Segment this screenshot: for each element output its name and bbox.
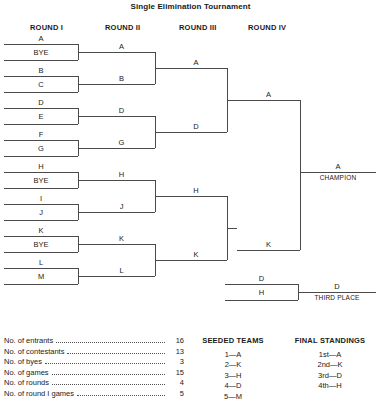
round1-line-9	[4, 172, 78, 173]
stats-table: No. of entrants 16 No. of contestants 13…	[4, 336, 184, 399]
round2-slot-2: B	[88, 74, 155, 83]
round1-line-5	[4, 108, 78, 109]
stats-value: 4	[168, 378, 184, 389]
stats-row: No. of round I games 5	[4, 389, 184, 400]
round2-slot-1: A	[88, 42, 155, 51]
stats-row: No. of byes 3	[4, 357, 184, 368]
round4-line-1	[237, 100, 300, 101]
list-item: 4—D	[186, 381, 280, 392]
round3-slot-3: H	[165, 186, 227, 195]
round2-stub-3	[155, 196, 165, 197]
round1-slot-13: K	[4, 226, 78, 235]
round1-stub-6	[78, 212, 88, 213]
round1-line-13	[4, 236, 78, 237]
round1-stub-2	[78, 84, 88, 85]
round1-slot-1: A	[4, 34, 78, 43]
round1-line-14	[4, 252, 78, 253]
round3-line-2	[165, 132, 227, 133]
round3-line-3	[165, 196, 227, 197]
round1-stub-5	[78, 180, 88, 181]
round-header-4: ROUND IV	[248, 23, 286, 32]
stats-dots	[45, 363, 165, 364]
round2-line-2	[88, 84, 155, 85]
round1-stub-8	[78, 276, 88, 277]
round-header-1: ROUND I	[30, 23, 63, 32]
stats-dots	[56, 342, 165, 343]
third-place-caption: THIRD PLACE	[298, 294, 376, 301]
round4-slot-1: A	[237, 90, 300, 99]
round1-line-8	[4, 156, 78, 157]
round1-slot-4: C	[4, 80, 78, 89]
round3-slot-4: K	[165, 250, 227, 259]
round3-line-1	[165, 68, 227, 69]
round1-stub-7	[78, 244, 88, 245]
stats-dots	[52, 374, 165, 375]
round1-line-12	[4, 220, 78, 221]
round2-line-5	[88, 180, 155, 181]
round2-slot-4: G	[88, 138, 155, 147]
round-header-3: ROUND III	[179, 23, 217, 32]
round3-slot-2: D	[165, 122, 227, 131]
round3-stub-2	[227, 228, 237, 229]
stats-label: No. of rounds	[4, 378, 49, 389]
stats-value: 3	[168, 357, 184, 368]
final-standings-title: FINAL STANDINGS	[283, 336, 377, 347]
round1-line-3	[4, 76, 78, 77]
stats-value: 5	[168, 389, 184, 400]
round3-stub-1	[227, 100, 237, 101]
seeded-teams-title: SEEDED TEAMS	[186, 336, 280, 347]
stats-value: 13	[168, 347, 184, 358]
round2-stub-1	[155, 68, 165, 69]
stats-label: No. of byes	[4, 357, 42, 368]
list-item: 1st—A	[283, 350, 377, 361]
round1-slot-5: D	[4, 98, 78, 107]
champion-caption: CHAMPION	[300, 174, 376, 181]
round2-stub-4	[155, 260, 165, 261]
round1-slot-3: B	[4, 66, 78, 75]
round1-line-10	[4, 188, 78, 189]
round4-slot-2: K	[237, 240, 300, 249]
round2-line-7	[88, 244, 155, 245]
round1-slot-6: E	[4, 112, 78, 121]
list-item: 1—A	[186, 350, 280, 361]
list-item: 3rd—D	[283, 371, 377, 382]
list-item: 4th—H	[283, 381, 377, 392]
round1-slot-2: BYE	[4, 48, 78, 57]
round2-stub-2	[155, 132, 165, 133]
stats-label: No. of contestants	[4, 347, 64, 358]
round1-slot-8: G	[4, 144, 78, 153]
round2-slot-6: J	[88, 202, 155, 211]
third-place-winner: D	[298, 282, 376, 291]
stats-row: No. of entrants 16	[4, 336, 184, 347]
round2-line-3	[88, 116, 155, 117]
round2-slot-8: L	[88, 266, 155, 275]
round1-line-7	[4, 140, 78, 141]
list-item: 2nd—K	[283, 360, 377, 371]
round1-line-6	[4, 124, 78, 125]
round1-line-1	[4, 44, 78, 45]
round2-line-8	[88, 276, 155, 277]
round1-slot-12: J	[4, 208, 78, 217]
seeded-teams-panel: SEEDED TEAMS 1—A 2—K 3—H 4—D 5—M	[186, 336, 280, 402]
round2-slot-5: H	[88, 170, 155, 179]
stats-dots	[77, 395, 165, 396]
stats-value: 16	[168, 336, 184, 347]
round1-slot-14: BYE	[4, 240, 78, 249]
seeded-teams-list: 1—A 2—K 3—H 4—D 5—M	[186, 350, 280, 403]
round3-line-4	[165, 260, 227, 261]
round1-slot-7: F	[4, 130, 78, 139]
round1-stub-3	[78, 116, 88, 117]
round1-stub-4	[78, 148, 88, 149]
stats-row: No. of rounds 4	[4, 378, 184, 389]
round2-slot-7: K	[88, 234, 155, 243]
round3-slot-1: A	[165, 58, 227, 67]
stats-row: No. of contestants 13	[4, 347, 184, 358]
list-item: 2—K	[186, 360, 280, 371]
round1-line-2	[4, 60, 78, 61]
round-header-2: ROUND II	[105, 23, 140, 32]
round1-slot-10: BYE	[4, 176, 78, 185]
stats-label: No. of round I games	[4, 389, 74, 400]
round2-line-1	[88, 52, 155, 53]
third-place-winner-line	[298, 292, 376, 293]
list-item: 3—H	[186, 371, 280, 382]
